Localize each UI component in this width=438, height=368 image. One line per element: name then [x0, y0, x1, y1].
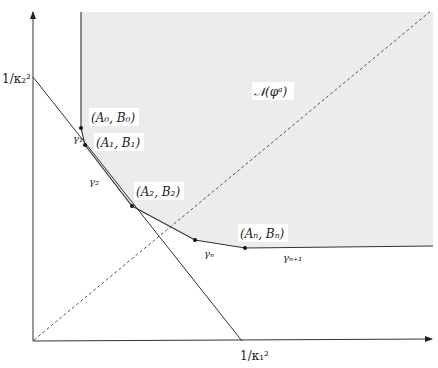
- x-axis-label: 1/κ₁²: [240, 349, 269, 363]
- point-label-A2B2: (A₂, B₂): [136, 185, 180, 199]
- region-label: 𝒩(φᵃ): [254, 85, 288, 99]
- newton-polygon-diagram: 1/κ₂² 1/κ₁² (A₀, B₀) (A₁, B₁) (A₂, B₂) (…: [0, 0, 438, 368]
- vertex-A0B0: [79, 126, 83, 130]
- point-label-A1B1: (A₁, B₁): [96, 136, 140, 150]
- segment-label-gamman: γₙ: [204, 248, 214, 259]
- segment-label-gamma2: γ₂: [89, 176, 99, 187]
- point-label-A0B0: (A₀, B₀): [91, 111, 135, 125]
- vertex-A2B2: [130, 204, 134, 208]
- x-axis: [33, 339, 432, 341]
- segment-label-gamman1: γₙ₊₁: [283, 252, 302, 263]
- vertex-AnBn: [243, 246, 247, 250]
- shaded-region: [81, 12, 433, 248]
- point-label-AnBn: (Aₙ, Bₙ): [240, 227, 285, 241]
- segment-label-gamma1: γ₁: [73, 133, 83, 144]
- y-axis-label: 1/κ₂²: [2, 72, 31, 86]
- vertex-gamman-start: [193, 238, 197, 242]
- vertex-A1B1: [83, 143, 87, 147]
